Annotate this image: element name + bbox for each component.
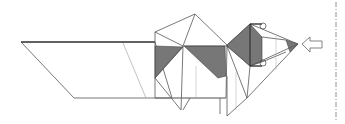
body-tail-flap (21, 42, 172, 98)
origami-diagram (0, 0, 345, 124)
push-arrow-icon (302, 37, 322, 52)
